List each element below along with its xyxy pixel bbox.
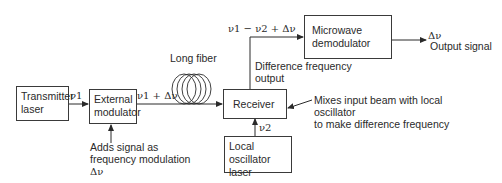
signal-nu1: ν1 (70, 89, 82, 102)
difference-output-label-2: output (255, 72, 284, 85)
fiber-label: Long fiber (170, 52, 217, 65)
external-modulator-block: External modulator (89, 89, 137, 124)
signal-difference: ν1 − ν2 + Δν (228, 22, 296, 35)
modulator-label-2: modulator (94, 106, 132, 119)
demodulator-label-1: Microwave (312, 24, 387, 37)
mixer-note-3: to make difference frequency (314, 118, 449, 131)
transmitter-label-2: laser (21, 103, 64, 116)
demodulator-label-2: demodulator (312, 37, 387, 50)
modulator-label-1: External (94, 93, 132, 106)
local-osc-label-1: Local oscillator (229, 140, 287, 166)
receiver-label: Receiver (233, 98, 274, 110)
microwave-demodulator-block: Microwave demodulator (304, 15, 392, 59)
modulation-note-2: frequency modulation (90, 153, 190, 166)
local-osc-label-2: laser (229, 166, 287, 179)
output-signal-label: Output signal (430, 40, 492, 53)
signal-nu2: ν2 (259, 121, 271, 134)
fiber-coil-icon (172, 74, 211, 104)
transmitter-laser-block: Transmitter laser (16, 86, 69, 121)
modulation-note-3: Δν (90, 165, 103, 178)
signal-nu1-plus-delta: ν1 + Δν (137, 89, 177, 102)
arrow-mixer-annotation (288, 100, 312, 108)
transmitter-label-1: Transmitter (21, 90, 64, 103)
local-oscillator-block: Local oscillator laser (224, 136, 292, 173)
receiver-block: Receiver (223, 89, 287, 119)
